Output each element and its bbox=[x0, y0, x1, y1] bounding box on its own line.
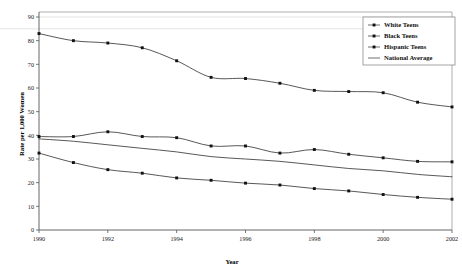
data-point bbox=[278, 184, 281, 187]
data-point bbox=[38, 152, 41, 155]
data-point bbox=[210, 76, 213, 79]
legend-item-label: White Teens bbox=[384, 21, 419, 28]
data-point bbox=[244, 182, 247, 185]
data-point bbox=[175, 176, 178, 179]
data-point bbox=[347, 190, 350, 193]
chart-canvas: 0102030405060708090 19901992199419961998… bbox=[0, 0, 462, 273]
data-point bbox=[244, 145, 247, 148]
y-axis-title: Rate per 1,000 Women bbox=[18, 92, 25, 156]
data-point bbox=[347, 90, 350, 93]
x-axis-title: Year bbox=[225, 258, 238, 265]
legend-item-label: Hispanic Teens bbox=[384, 43, 427, 50]
data-point bbox=[106, 168, 109, 171]
series-hispanic-teens bbox=[38, 130, 454, 163]
x-tick-label: 2000 bbox=[377, 235, 389, 242]
data-point bbox=[416, 196, 419, 199]
y-tick-label: 20 bbox=[28, 179, 34, 186]
legend-item-label: Black Teens bbox=[384, 32, 418, 39]
y-tick-label: 0 bbox=[31, 226, 34, 233]
data-point bbox=[382, 156, 385, 159]
y-tick-label: 90 bbox=[28, 13, 34, 20]
data-point bbox=[244, 77, 247, 80]
data-point bbox=[210, 179, 213, 182]
x-tick-label: 1990 bbox=[33, 235, 45, 242]
y-tick-label: 50 bbox=[28, 108, 34, 115]
data-point bbox=[141, 46, 144, 49]
data-point bbox=[451, 160, 454, 163]
data-point bbox=[38, 135, 41, 138]
data-point bbox=[141, 172, 144, 175]
legend-swatch-marker bbox=[373, 35, 376, 38]
data-point bbox=[451, 198, 454, 201]
data-point bbox=[278, 152, 281, 155]
data-point bbox=[175, 59, 178, 62]
data-point bbox=[451, 105, 454, 108]
data-point bbox=[313, 187, 316, 190]
data-point bbox=[278, 82, 281, 85]
legend-swatch-marker bbox=[373, 46, 376, 49]
x-tick-label: 2002 bbox=[446, 235, 458, 242]
x-tick-label: 1998 bbox=[308, 235, 320, 242]
data-point bbox=[347, 153, 350, 156]
data-point bbox=[106, 130, 109, 133]
data-point bbox=[175, 136, 178, 139]
data-point bbox=[382, 193, 385, 196]
x-axis-ticks: 1990199219941996199820002002 bbox=[33, 230, 458, 242]
y-axis-ticks: 0102030405060708090 bbox=[28, 13, 39, 233]
y-tick-label: 70 bbox=[28, 61, 34, 68]
x-tick-label: 1994 bbox=[170, 235, 182, 242]
y-tick-label: 80 bbox=[28, 37, 34, 44]
data-point bbox=[72, 39, 75, 42]
data-point bbox=[416, 101, 419, 104]
data-point bbox=[313, 89, 316, 92]
y-tick-label: 40 bbox=[28, 132, 34, 139]
data-point bbox=[382, 91, 385, 94]
legend-item-label: National Average bbox=[384, 54, 432, 61]
series-line bbox=[39, 153, 452, 199]
x-tick-label: 1992 bbox=[102, 235, 114, 242]
data-point bbox=[210, 145, 213, 148]
y-tick-label: 10 bbox=[28, 203, 34, 210]
data-point bbox=[38, 32, 41, 35]
y-tick-label: 30 bbox=[28, 155, 34, 162]
chart-legend: White TeensBlack TeensHispanic TeensNati… bbox=[363, 17, 455, 65]
legend-swatch-marker bbox=[373, 24, 376, 27]
data-point bbox=[72, 161, 75, 164]
data-point bbox=[106, 42, 109, 45]
x-tick-label: 1996 bbox=[239, 235, 251, 242]
data-point bbox=[313, 148, 316, 151]
data-point bbox=[141, 135, 144, 138]
line-chart: 0102030405060708090 19901992199419961998… bbox=[0, 0, 462, 273]
y-tick-label: 60 bbox=[28, 84, 34, 91]
data-point bbox=[72, 135, 75, 138]
data-point bbox=[416, 160, 419, 163]
